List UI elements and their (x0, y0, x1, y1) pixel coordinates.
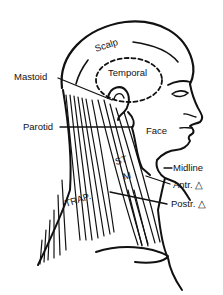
skull-outline (62, 21, 194, 88)
label-posterior-triangle: Postr. △ (171, 198, 206, 209)
label-anterior-triangle: Antr. △ (173, 179, 203, 190)
postr-leader (110, 192, 167, 204)
scalp-arc-left (76, 60, 88, 84)
label-temporal: Temporal (108, 67, 147, 78)
label-midline: Midline (173, 162, 203, 173)
nose-line (184, 114, 196, 117)
label-face: Face (146, 125, 167, 136)
eye (172, 91, 188, 97)
clavicle (96, 247, 168, 263)
label-scalp: Scalp (93, 36, 119, 54)
brow (168, 81, 190, 85)
label-m: M (122, 169, 133, 182)
ear-inner (114, 94, 124, 99)
antr-leader (146, 176, 170, 184)
neck-front (158, 178, 182, 290)
head-neck-diagram: Scalp Temporal Mastoid Parotid Face ST M… (0, 0, 223, 295)
label-mastoid: Mastoid (14, 71, 47, 82)
label-parotid: Parotid (23, 121, 53, 132)
jaw-line (128, 112, 150, 175)
